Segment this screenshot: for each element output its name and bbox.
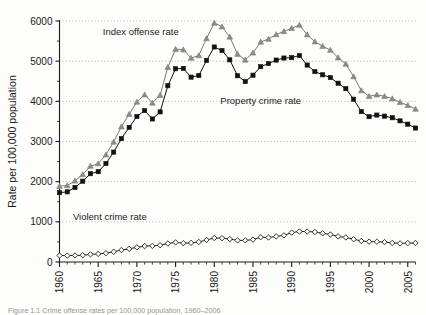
svg-text:2000: 2000 [364, 271, 375, 294]
annotation-label: Property crime rate [220, 95, 301, 106]
svg-text:1995: 1995 [325, 271, 336, 294]
svg-text:2000: 2000 [30, 176, 53, 187]
svg-text:1985: 1985 [248, 271, 259, 294]
svg-text:1975: 1975 [170, 271, 181, 294]
annotation-label: Index offense rate [103, 26, 179, 37]
svg-text:1980: 1980 [209, 271, 220, 294]
figure-container: 0100020003000400050006000 19601965197019… [0, 0, 426, 315]
svg-text:4000: 4000 [30, 96, 53, 107]
svg-text:1970: 1970 [132, 271, 143, 294]
svg-text:1965: 1965 [93, 271, 104, 294]
svg-text:2005: 2005 [403, 271, 414, 294]
figure-caption: Figure 1.1 Crime offense rates per 100,0… [8, 306, 420, 315]
svg-text:1000: 1000 [30, 216, 53, 227]
svg-text:0: 0 [47, 257, 53, 268]
svg-text:1990: 1990 [286, 271, 297, 294]
svg-text:5000: 5000 [30, 56, 53, 67]
crime-rate-line-chart: 0100020003000400050006000 19601965197019… [0, 0, 426, 315]
svg-text:6000: 6000 [30, 16, 53, 27]
svg-text:Rate per 100,000 population: Rate per 100,000 population [6, 75, 18, 208]
annotation-label: Violent crime rate [73, 211, 147, 222]
svg-text:1960: 1960 [54, 271, 65, 294]
svg-text:3000: 3000 [30, 136, 53, 147]
y-axis-title: Rate per 100,000 population [6, 75, 18, 208]
